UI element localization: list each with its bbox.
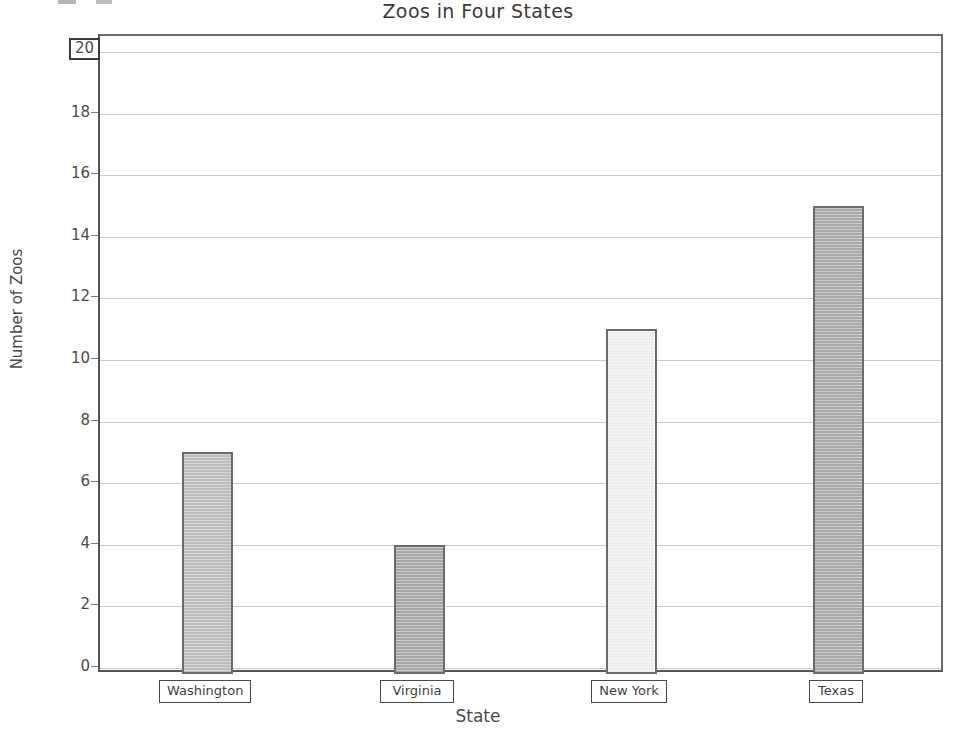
y-tick-mark: [91, 112, 98, 113]
bar-texture: [184, 454, 231, 672]
bar-texture: [396, 547, 443, 672]
y-tick-mark: [91, 666, 98, 667]
x-tick-label-washington[interactable]: Washington: [159, 680, 251, 703]
y-tick-mark: [91, 358, 98, 359]
y-tick-label[interactable]: 18: [71, 103, 90, 121]
y-tick-mark: [91, 173, 98, 174]
y-tick-label[interactable]: 6: [80, 472, 90, 490]
y-axis-label: Number of Zoos: [8, 229, 26, 389]
y-tick-mark: [91, 296, 98, 297]
x-tick-label-new-york[interactable]: New York: [591, 680, 667, 703]
y-tick-mark: [91, 235, 98, 236]
y-tick-mark: [91, 481, 98, 482]
y-tick-label[interactable]: 0: [80, 657, 90, 675]
gridline: [100, 52, 941, 53]
y-tick-label[interactable]: 8: [80, 411, 90, 429]
gridline: [100, 114, 941, 115]
y-tick-label[interactable]: 14: [71, 226, 90, 244]
bar-texture: [608, 331, 655, 672]
y-tick-label[interactable]: 2: [80, 595, 90, 613]
y-tick-label[interactable]: 4: [80, 534, 90, 552]
x-axis-label: State: [0, 706, 956, 726]
bar-texture: [815, 208, 862, 672]
y-tick-mark: [91, 420, 98, 421]
y-tick-label-selected[interactable]: 20: [69, 38, 100, 60]
y-tick-mark: [91, 543, 98, 544]
gridline: [100, 175, 941, 176]
x-tick-label-virginia[interactable]: Virginia: [380, 680, 454, 703]
plot-area: [98, 34, 943, 672]
y-tick-label[interactable]: 16: [71, 164, 90, 182]
y-tick-mark: [91, 604, 98, 605]
bar-texas[interactable]: [813, 206, 864, 674]
page-title: Zoos in Four States: [0, 0, 956, 22]
bar-new-york[interactable]: [606, 329, 657, 674]
bar-virginia[interactable]: [394, 545, 445, 674]
x-tick-label-texas[interactable]: Texas: [809, 680, 863, 703]
y-tick-label[interactable]: 10: [71, 349, 90, 367]
bar-washington[interactable]: [182, 452, 233, 674]
y-tick-label[interactable]: 12: [71, 287, 90, 305]
